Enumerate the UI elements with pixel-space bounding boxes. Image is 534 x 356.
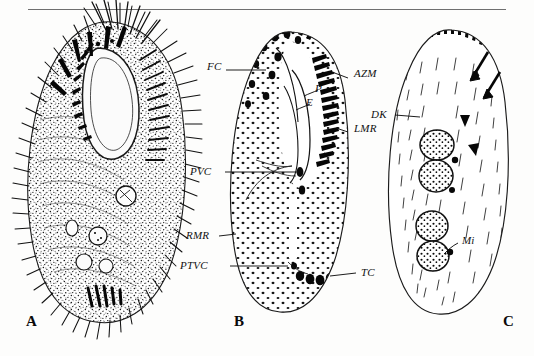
- label-ptvc: PTVC: [180, 259, 208, 271]
- label-dk: DK: [371, 108, 387, 120]
- label-fc: FC: [207, 60, 221, 72]
- panel-letter-b: B: [234, 313, 244, 330]
- panel-b-drawing: [219, 25, 358, 322]
- figure-artwork: [0, 0, 534, 356]
- panel-letter-a: A: [26, 313, 37, 330]
- label-mi: Mi: [462, 234, 475, 246]
- label-pvc: PVC: [190, 165, 211, 177]
- figure-plate: FC P E AZM LMR PVC RMR PTVC TC DK Mi A B…: [0, 0, 534, 356]
- panel-letter-c: C: [503, 313, 514, 330]
- label-e: E: [306, 96, 313, 108]
- panel-a-drawing: [12, 0, 202, 339]
- panel-c-drawing: [388, 25, 514, 322]
- label-rmr: RMR: [186, 229, 209, 241]
- label-azm: AZM: [354, 67, 377, 79]
- label-lmr: LMR: [354, 122, 377, 134]
- label-tc: TC: [361, 266, 375, 278]
- label-p: P: [315, 82, 322, 94]
